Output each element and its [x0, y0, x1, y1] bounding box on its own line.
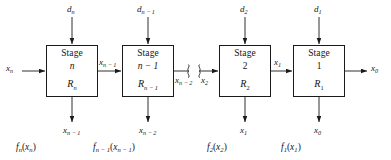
stage-1-index: 1	[317, 60, 322, 74]
bottom-state-label-x-1: x1	[240, 126, 247, 135]
stage-box-1[interactable]: Stage 1 R1	[293, 45, 345, 97]
bottom-state-label-x-0: x0	[314, 126, 321, 135]
stage-n-minus-1-title: Stage	[137, 48, 159, 60]
figure-canvas: Stage n Rn Stage n − 1 Rn − 1 Stage 2 R2…	[0, 0, 391, 160]
stage-box-n-minus-1[interactable]: Stage n − 1 Rn − 1	[122, 45, 174, 97]
stage-box-n[interactable]: Stage n Rn	[46, 45, 98, 97]
decision-label-d-n-minus-1: dn − 1	[137, 5, 155, 14]
state-label-x-2-flow: x2	[201, 76, 208, 85]
stage-2-return: R2	[240, 74, 249, 94]
decision-label-d-2: d2	[240, 5, 248, 14]
bottom-state-label-x-n-minus-2: xn − 2	[139, 126, 156, 135]
state-label-x-n-minus-2-flow: xn − 2	[175, 76, 192, 85]
return-function-label-f-1: f1(x1)	[281, 143, 301, 153]
stage-n-title: Stage	[61, 48, 83, 60]
stage-n-index: n	[70, 60, 75, 74]
stage-1-title: Stage	[308, 48, 330, 60]
stage-1-return: R1	[314, 74, 323, 94]
stage-n-minus-1-return: Rn − 1	[138, 74, 158, 94]
stage-box-2[interactable]: Stage 2 R2	[219, 45, 271, 97]
return-function-label-f-2: f2(x2)	[207, 143, 227, 153]
return-function-label-f-n-minus-1: fn − 1(xn − 1)	[93, 143, 135, 153]
stage-2-index: 2	[243, 60, 248, 74]
decision-label-d-n: dn	[67, 5, 75, 14]
stage-n-minus-1-index: n − 1	[138, 60, 159, 74]
bottom-state-label-x-n-minus-1: xn − 1	[63, 126, 80, 135]
break-mark-right	[199, 65, 200, 78]
return-function-label-f-n: fn(xn)	[16, 143, 36, 153]
stage-2-title: Stage	[234, 48, 256, 60]
state-label-x-1-flow: x1	[274, 58, 281, 67]
stage-n-return: Rn	[67, 74, 76, 94]
state-label-x-n-minus-1-flow: xn − 1	[99, 58, 116, 67]
state-label-output-x-0: x0	[371, 64, 378, 73]
decision-label-d-1: d1	[314, 5, 322, 14]
state-label-input-x-n: xn	[6, 64, 13, 73]
